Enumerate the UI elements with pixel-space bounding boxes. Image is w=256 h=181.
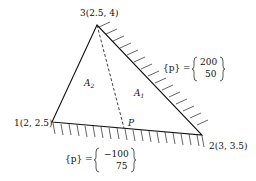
load-12-lhs: {p} = — [65, 154, 93, 164]
node-3-label: 3(2.5, 4) — [80, 8, 119, 18]
point-p-label: P — [127, 118, 135, 128]
triangle-element — [52, 25, 202, 135]
triangle-element-diagram: 3(2.5, 4) 1(2, 2.5) 2(3, 3.5) A2 A1 P {p… — [0, 0, 256, 181]
edge-23-load-hatching — [99, 22, 208, 125]
dashed-divider-line — [97, 25, 124, 128]
edge-12-load-vector: {p} = −100 75 — [65, 148, 136, 172]
area-a1-label: A1 — [133, 88, 144, 99]
node-2-label: 2(3, 3.5) — [209, 141, 248, 151]
load-23-lhs: {p} = — [163, 63, 191, 73]
area-a2-label: A2 — [83, 78, 95, 89]
load-23-value-y: 50 — [205, 69, 217, 79]
load-23-value-x: 200 — [200, 57, 217, 67]
edge-23-load-vector: {p} = 200 50 — [163, 57, 225, 81]
load-12-value-y: 75 — [116, 161, 128, 171]
load-12-value-x: −100 — [104, 149, 129, 159]
node-1-label: 1(2, 2.5) — [14, 118, 53, 128]
